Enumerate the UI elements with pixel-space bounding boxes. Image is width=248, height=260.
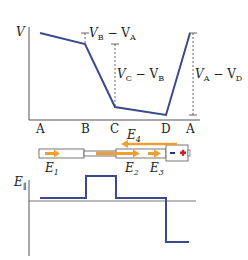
x-label-a1: A [35, 122, 45, 136]
label-vb-minus-va: VB − VA [89, 26, 136, 42]
label-va-minus-vd: VA − VD [195, 67, 242, 83]
x-label-b: B [81, 122, 90, 136]
field-curve [40, 176, 189, 242]
field-graph: E∥ [13, 175, 196, 256]
circuit-diagram: V VB − VA VC − VB VA − VD A B C D A [0, 0, 248, 260]
battery-terminal [188, 150, 190, 156]
y-axis-label: V [16, 25, 26, 39]
y-axis-label: E∥ [13, 175, 26, 191]
label-e1: E1 [44, 161, 59, 177]
label-e2: E2 [124, 161, 139, 177]
x-label-d: D [161, 122, 171, 136]
battery-minus-icon [170, 152, 175, 154]
label-e3: E3 [149, 161, 164, 177]
x-label-c: C [110, 122, 119, 136]
potential-graph: V VB − VA VC − VB VA − VD A B C D A [16, 25, 242, 136]
x-label-a2: A [185, 122, 195, 136]
label-e4: E4 [126, 128, 141, 144]
label-vc-minus-vb: VC − VB [117, 67, 164, 83]
